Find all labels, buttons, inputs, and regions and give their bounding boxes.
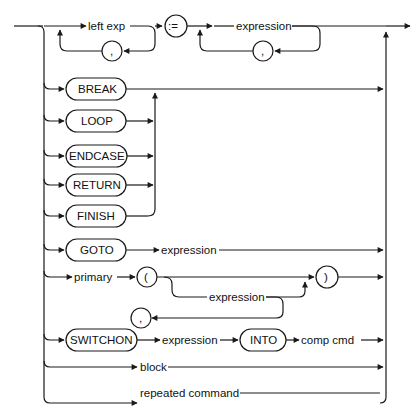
switchon-label: SWITCHON [70,334,133,346]
row-call: primary ( expression , ) [44,266,383,328]
switchon-expression-label: expression [162,334,218,346]
left-exp-label: left exp [88,20,125,32]
rparen-label: ) [324,271,328,283]
row-block: block [44,361,383,373]
primary-label: primary [74,271,113,283]
row-switchon: SWITCHON expression INTO comp cmd [44,329,383,351]
row-finish: FINISH [44,205,148,227]
repeated-command-label: repeated command [140,387,239,399]
row-loop: LOOP [44,110,153,132]
loop-label: LOOP [81,115,113,127]
expression-label: expression [236,20,292,32]
row-break: BREAK [44,78,383,100]
comp-cmd-label: comp cmd [301,334,354,346]
into-label: INTO [250,334,277,346]
goto-label: GOTO [80,244,114,256]
row-goto: GOTO expression [44,239,383,261]
return-label: RETURN [73,179,121,191]
goto-expression-label: expression [161,244,217,256]
endcase-label: ENDCASE [69,150,125,162]
finish-label: FINISH [77,210,115,222]
call-expression-label: expression [209,291,265,303]
row-endcase: ENDCASE [44,145,153,167]
assign-label: := [168,20,178,32]
comma-label: , [261,45,264,57]
lparen-label: ( [144,271,148,283]
break-label: BREAK [78,83,117,95]
left-rail [38,26,50,403]
syntax-diagram: left exp , := expression , BREAK LOOP [0,0,417,411]
row-repeated: repeated command [50,387,380,403]
inner-rail [148,93,155,216]
block-label: block [140,361,167,373]
row-assignment: left exp , := expression , [44,15,386,61]
comma-label: , [110,45,113,57]
row-return: RETURN [44,174,153,196]
right-rail [380,26,410,403]
